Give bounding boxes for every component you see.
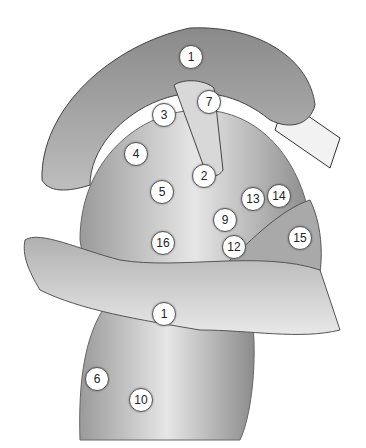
anatomy-illustration xyxy=(0,0,366,448)
label-14: 14 xyxy=(267,184,291,208)
label-1-bottom: 1 xyxy=(152,302,176,326)
label-13: 13 xyxy=(241,187,265,211)
label-7: 7 xyxy=(197,90,221,114)
label-10: 10 xyxy=(129,388,153,412)
label-15: 15 xyxy=(288,226,312,250)
label-2: 2 xyxy=(192,164,216,188)
label-12: 12 xyxy=(222,235,246,259)
label-4: 4 xyxy=(124,142,148,166)
label-3: 3 xyxy=(152,103,176,127)
label-6: 6 xyxy=(85,367,109,391)
label-16: 16 xyxy=(151,231,175,255)
label-1-top: 1 xyxy=(179,45,203,69)
label-5: 5 xyxy=(150,180,174,204)
label-9: 9 xyxy=(213,208,237,232)
